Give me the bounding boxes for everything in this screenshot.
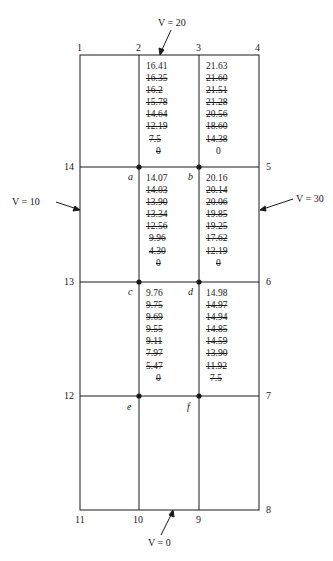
node-letter-c: c bbox=[128, 287, 132, 297]
crossed-value: 0 bbox=[146, 257, 167, 269]
node-b-dot bbox=[196, 164, 201, 169]
arrow-top-icon bbox=[161, 30, 171, 52]
crossed-value: 5.47 bbox=[146, 360, 163, 372]
crossed-value: 19.25 bbox=[206, 220, 227, 232]
crossed-value: 20.14 bbox=[206, 184, 227, 196]
node-label-8: 8 bbox=[266, 505, 271, 515]
iteration-column-d: 14.98 14.97 14.94 14.85 14.59 13.90 11.9… bbox=[206, 287, 227, 384]
crossed-value: 0 bbox=[206, 257, 227, 269]
iteration-column-c: 9.76 9.75 9.69 9.55 9.11 7.97 5.47 0 bbox=[146, 287, 163, 384]
iteration-column-b: 20.16 20.14 20.06 19.85 19.25 17.62 12.1… bbox=[206, 172, 227, 269]
node-label-14: 14 bbox=[64, 162, 74, 172]
node-label-12: 12 bbox=[64, 391, 74, 401]
crossed-value: 21.51 bbox=[206, 84, 227, 96]
node-a-dot bbox=[136, 164, 141, 169]
node-label-1: 1 bbox=[77, 43, 82, 53]
crossed-value: 16.2 bbox=[146, 84, 167, 96]
node-d-dot bbox=[196, 279, 201, 284]
node-letter-f: f bbox=[187, 402, 190, 412]
crossed-value: 11.92 bbox=[206, 360, 227, 372]
final-value: 14.07 bbox=[146, 172, 167, 184]
crossed-value: 9.96 bbox=[146, 232, 167, 244]
final-value: 21.63 bbox=[206, 60, 227, 72]
crossed-value: 14.64 bbox=[146, 108, 167, 120]
node-label-13: 13 bbox=[64, 277, 74, 287]
crossed-value: 14.59 bbox=[206, 335, 227, 347]
final-value: 9.76 bbox=[146, 287, 163, 299]
iteration-column-a: 14.07 14.03 13.90 13.34 12.56 9.96 4.30 … bbox=[146, 172, 167, 269]
crossed-value: 12.19 bbox=[146, 120, 167, 132]
final-value: 20.16 bbox=[206, 172, 227, 184]
crossed-value: 13.34 bbox=[146, 208, 167, 220]
crossed-value: 21.28 bbox=[206, 96, 227, 108]
initial-value: 0 bbox=[206, 145, 227, 157]
crossed-value: 18.60 bbox=[206, 120, 227, 132]
node-label-3: 3 bbox=[196, 43, 201, 53]
bc-label-top: V = 20 bbox=[158, 18, 186, 28]
node-label-10: 10 bbox=[133, 515, 143, 525]
crossed-value: 20.06 bbox=[206, 196, 227, 208]
crossed-value: 19.85 bbox=[206, 208, 227, 220]
crossed-value: 14.97 bbox=[206, 299, 227, 311]
crossed-value: 9.55 bbox=[146, 323, 163, 335]
node-letter-a: a bbox=[128, 172, 133, 182]
crossed-value: 12.19 bbox=[206, 245, 227, 257]
crossed-value: 15.78 bbox=[146, 96, 167, 108]
final-value: 14.98 bbox=[206, 287, 227, 299]
arrow-right-icon bbox=[263, 199, 293, 209]
crossed-value: 20.56 bbox=[206, 108, 227, 120]
node-letter-d: d bbox=[188, 287, 193, 297]
crossed-value: 14.03 bbox=[146, 184, 167, 196]
crossed-value: 12.56 bbox=[146, 220, 167, 232]
crossed-value: 9.11 bbox=[146, 335, 163, 347]
node-label-5: 5 bbox=[266, 162, 271, 172]
crossed-value: 7.5 bbox=[146, 133, 167, 145]
crossed-value: 16.35 bbox=[146, 72, 167, 84]
node-label-7: 7 bbox=[266, 391, 271, 401]
crossed-value: 7.5 bbox=[206, 372, 227, 384]
crossed-value: 14.38 bbox=[206, 133, 227, 145]
node-f-dot bbox=[196, 393, 201, 398]
crossed-value: 9.75 bbox=[146, 299, 163, 311]
crossed-value: 9.69 bbox=[146, 311, 163, 323]
node-label-6: 6 bbox=[266, 277, 271, 287]
crossed-value: 14.85 bbox=[206, 323, 227, 335]
final-value: 16.41 bbox=[146, 60, 167, 72]
node-e-dot bbox=[136, 393, 141, 398]
crossed-value: 17.62 bbox=[206, 232, 227, 244]
finite-difference-grid-diagram: 1 2 3 4 5 6 7 8 9 10 11 12 13 14 a b c d… bbox=[0, 0, 333, 561]
node-label-11: 11 bbox=[75, 515, 85, 525]
node-label-4: 4 bbox=[255, 43, 260, 53]
bc-label-bottom: V = 0 bbox=[148, 538, 171, 548]
crossed-value: 0 bbox=[146, 372, 163, 384]
bc-label-left: V = 10 bbox=[12, 197, 40, 207]
bc-label-right: V = 30 bbox=[296, 194, 324, 204]
iteration-column-top-left: 16.41 16.35 16.2 15.78 14.64 12.19 7.5 0 bbox=[146, 60, 167, 157]
node-label-9: 9 bbox=[196, 515, 201, 525]
arrow-bottom-icon bbox=[161, 513, 172, 535]
node-label-2: 2 bbox=[136, 43, 141, 53]
crossed-value: 7.97 bbox=[146, 347, 163, 359]
crossed-value: 21.60 bbox=[206, 72, 227, 84]
node-c-dot bbox=[136, 279, 141, 284]
crossed-value: 13.90 bbox=[146, 196, 167, 208]
crossed-value: 0 bbox=[146, 145, 167, 157]
node-letter-e: e bbox=[127, 402, 131, 412]
iteration-column-top-right: 21.63 21.60 21.51 21.28 20.56 18.60 14.3… bbox=[206, 60, 227, 157]
node-letter-b: b bbox=[188, 172, 193, 182]
crossed-value: 4.30 bbox=[146, 245, 167, 257]
crossed-value: 13.90 bbox=[206, 347, 227, 359]
crossed-value: 14.94 bbox=[206, 311, 227, 323]
